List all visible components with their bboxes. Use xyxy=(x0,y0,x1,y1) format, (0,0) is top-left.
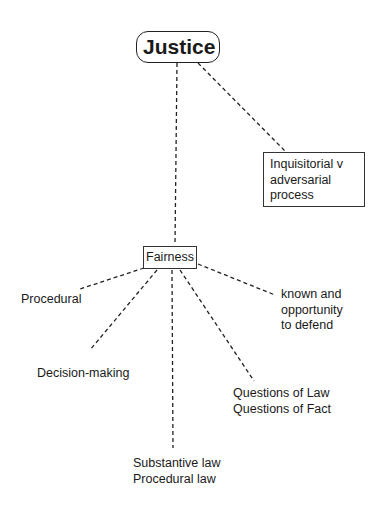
decision-making-text: Decision-making xyxy=(37,366,129,380)
questions-label: Questions of Law Questions of Fact xyxy=(233,386,331,417)
questions-line-1: Questions of Law xyxy=(233,386,331,402)
edge-fairness-known xyxy=(198,264,275,295)
fairness-label: Fairness xyxy=(146,250,194,264)
inquisitorial-line-2: adversarial xyxy=(270,173,364,189)
justice-node: Justice xyxy=(136,31,220,63)
law-line-1: Substantive law xyxy=(133,456,221,472)
edge-justice-fairness xyxy=(175,63,177,245)
known-line-2: opportunity xyxy=(281,303,343,319)
known-line-1: known and xyxy=(281,287,343,303)
edge-fairness-law xyxy=(172,270,173,448)
edge-justice-inquisitorial xyxy=(198,63,285,151)
edge-fairness-questions xyxy=(180,270,254,381)
known-line-3: to defend xyxy=(281,318,343,334)
edge-fairness-procedural xyxy=(80,268,144,289)
law-label: Substantive law Procedural law xyxy=(133,456,221,487)
decision-making-label: Decision-making xyxy=(37,366,129,382)
procedural-label: Procedural xyxy=(21,292,81,308)
inquisitorial-line-1: Inquisitorial v xyxy=(270,157,364,173)
known-label: known and opportunity to defend xyxy=(281,287,343,334)
justice-label: Justice xyxy=(143,35,215,58)
law-line-2: Procedural law xyxy=(133,472,221,488)
edge-fairness-decision-making xyxy=(90,270,157,350)
procedural-text: Procedural xyxy=(21,292,81,306)
fairness-node: Fairness xyxy=(143,246,197,269)
questions-line-2: Questions of Fact xyxy=(233,402,331,418)
inquisitorial-node: Inquisitorial v adversarial process xyxy=(263,152,365,207)
inquisitorial-line-3: process xyxy=(270,188,364,204)
